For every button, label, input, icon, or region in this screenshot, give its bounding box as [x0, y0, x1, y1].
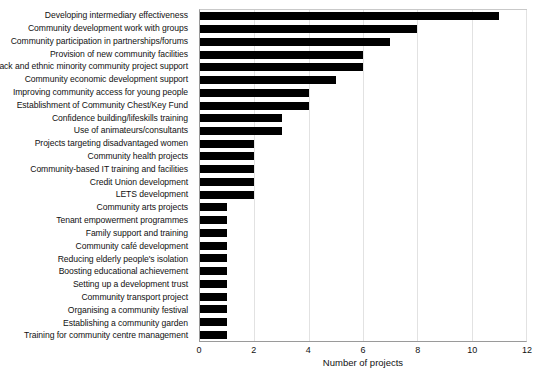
- x-tick-label: 10: [467, 344, 477, 356]
- category-label: Confidence building/lifeskills training: [0, 112, 193, 125]
- bar: [200, 267, 227, 275]
- x-tick-label: 12: [522, 344, 532, 356]
- category-label: Community café development: [0, 240, 193, 253]
- bar-row: [200, 35, 526, 48]
- category-label: Improving community access for young peo…: [0, 86, 193, 99]
- category-label: Establishment of Community Chest/Key Fun…: [0, 99, 193, 112]
- bar-row: [200, 10, 526, 23]
- bar-row: [200, 74, 526, 87]
- bar: [200, 318, 227, 326]
- bar: [200, 127, 282, 135]
- category-label: Community economic development support: [0, 73, 193, 86]
- category-label: Community-based IT training and faciliti…: [0, 163, 193, 176]
- bar-row: [200, 277, 526, 290]
- bar-row: [200, 137, 526, 150]
- category-label: Community arts projects: [0, 201, 193, 214]
- bar-row: [200, 328, 526, 341]
- x-tick-label: 2: [251, 344, 256, 356]
- bar: [200, 38, 390, 46]
- category-label: LETS development: [0, 188, 193, 201]
- bar-row: [200, 316, 526, 329]
- bar: [200, 178, 254, 186]
- bar-row: [200, 48, 526, 61]
- bar-row: [200, 290, 526, 303]
- category-label: Community development work with groups: [0, 22, 193, 35]
- bar: [200, 331, 227, 339]
- category-label: Tenant empowerment programmes: [0, 214, 193, 227]
- category-label: Community participation in partnerships/…: [0, 35, 193, 48]
- bar: [200, 76, 336, 84]
- category-label: Provision of new community facilities: [0, 47, 193, 60]
- bar: [200, 51, 363, 59]
- bar-row: [200, 163, 526, 176]
- category-label: Boosting educational achievement: [0, 265, 193, 278]
- bar-row: [200, 201, 526, 214]
- bar: [200, 293, 227, 301]
- x-tick-label: 4: [306, 344, 311, 356]
- x-axis-tick-labels: 024681012: [199, 344, 527, 358]
- bar: [200, 114, 282, 122]
- bar-row: [200, 226, 526, 239]
- bar-row: [200, 150, 526, 163]
- bar: [200, 165, 254, 173]
- category-label: Establishing a community garden: [0, 317, 193, 330]
- bar: [200, 216, 227, 224]
- category-label: Reducing elderly people's isolation: [0, 252, 193, 265]
- bar-row: [200, 188, 526, 201]
- horizontal-bar-chart: Developing intermediary effectivenessCom…: [0, 0, 543, 372]
- bar: [200, 152, 254, 160]
- bar: [200, 280, 227, 288]
- bar-row: [200, 61, 526, 74]
- category-label: Black and ethnic minority community proj…: [0, 60, 193, 73]
- bar-row: [200, 112, 526, 125]
- bar: [200, 140, 254, 148]
- bar-row: [200, 239, 526, 252]
- category-label: Credit Union development: [0, 176, 193, 189]
- category-label: Setting up a development trust: [0, 278, 193, 291]
- bar: [200, 229, 227, 237]
- bar-row: [200, 23, 526, 36]
- bar: [200, 12, 499, 20]
- bar-row: [200, 99, 526, 112]
- bar: [200, 254, 227, 262]
- bar: [200, 242, 227, 250]
- gridline: [526, 10, 527, 341]
- x-axis-title: Number of projects: [199, 357, 527, 369]
- bar-series: [200, 10, 526, 341]
- bar-row: [200, 265, 526, 278]
- category-label: Use of animateurs/consultants: [0, 124, 193, 137]
- category-label: Community transport project: [0, 291, 193, 304]
- bar: [200, 89, 309, 97]
- category-label: Organising a community festival: [0, 304, 193, 317]
- bar: [200, 203, 227, 211]
- bar-row: [200, 176, 526, 189]
- category-label: Community health projects: [0, 150, 193, 163]
- plot-area: [199, 9, 527, 342]
- category-label: Projects targeting disadvantaged women: [0, 137, 193, 150]
- bar-row: [200, 125, 526, 138]
- x-tick-label: 0: [196, 344, 201, 356]
- bar: [200, 191, 254, 199]
- x-tick-label: 6: [360, 344, 365, 356]
- category-label: Family support and training: [0, 227, 193, 240]
- bar: [200, 305, 227, 313]
- category-axis-labels: Developing intermediary effectivenessCom…: [0, 9, 193, 342]
- bar: [200, 102, 309, 110]
- bar-row: [200, 303, 526, 316]
- bar-row: [200, 252, 526, 265]
- bar: [200, 63, 363, 71]
- x-tick-label: 8: [415, 344, 420, 356]
- bar-row: [200, 214, 526, 227]
- bar: [200, 25, 417, 33]
- bar-row: [200, 86, 526, 99]
- category-label: Developing intermediary effectiveness: [0, 9, 193, 22]
- category-label: Training for community centre management: [0, 329, 193, 342]
